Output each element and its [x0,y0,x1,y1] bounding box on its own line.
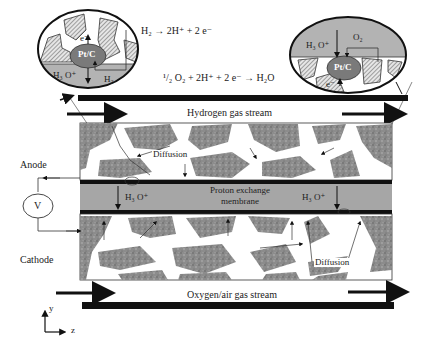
anode-gas-diffusion-layer [80,123,392,180]
fuel-cell-diagram [0,0,442,355]
anode-hydronium-label: H₃ O⁺ [53,71,76,80]
cathode-o2-label: O₂ [353,33,363,42]
voltmeter-label: V [34,201,41,211]
cathode-catalyst-boundary [80,210,392,214]
membrane-hydronium-right: H₃ O⁺ [302,193,325,202]
membrane-label-line2: membrane [190,197,290,206]
z-axis-label: z [71,326,75,335]
cathode-pt-c-label: Pt/C [334,63,352,72]
cathode-diffusion-label: Diffusion [314,258,350,267]
cathode-label: Cathode [20,255,53,265]
membrane-hydronium-left: H₃ O⁺ [125,193,148,202]
anode-h2-label: H₂ [104,75,114,84]
anode-pt-c-label: Pt/C [78,50,96,59]
cathode-hydronium-label: H₃ O⁺ [306,41,329,50]
anode-flow-plate [78,95,408,101]
y-axis-label: y [49,304,54,313]
anode-diffusion-label: Diffusion [152,150,188,159]
coordinate-axes-icon [45,312,64,332]
external-circuit [23,178,80,231]
anode-label: Anode [20,160,47,170]
oxygen-stream-label: Oxygen/air gas stream [187,290,277,300]
cathode-inset [290,15,406,97]
cathode-gas-diffusion-layer [80,214,392,280]
hydrogen-stream-label: Hydrogen gas stream [187,108,272,118]
cathode-flow-plate [82,302,394,309]
anode-electron-label: e⁻ [80,34,89,43]
cathode-electron-label: e⁻ [326,80,335,89]
membrane-label-line1: Proton exchange [190,186,290,195]
cathode-reaction: ¹/₂ O₂ + 2H⁺ + 2 e⁻ → H₂O [163,73,274,83]
anode-reaction: H₂ → 2H⁺ + 2 e⁻ [141,26,212,36]
